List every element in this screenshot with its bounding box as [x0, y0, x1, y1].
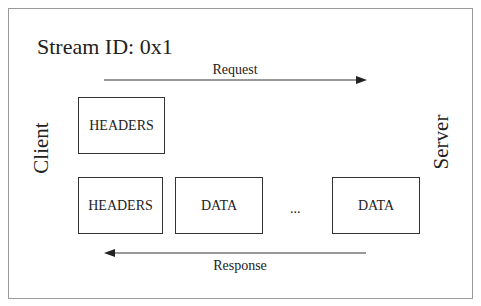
frame-label: HEADERS — [88, 198, 153, 214]
response-headers-frame: HEADERS — [78, 177, 163, 234]
ellipsis: ... — [290, 201, 301, 217]
arrowhead-left-icon — [104, 249, 115, 257]
frame-label: DATA — [201, 198, 237, 214]
frame-label: HEADERS — [89, 118, 154, 134]
frame-label: DATA — [358, 198, 394, 214]
response-data-frame-1: DATA — [175, 177, 263, 234]
response-data-frame-n: DATA — [332, 177, 420, 234]
arrowhead-right-icon — [356, 76, 367, 84]
request-label: Request — [205, 62, 265, 78]
response-label: Response — [205, 258, 275, 274]
request-headers-frame: HEADERS — [78, 97, 165, 154]
response-arrow — [104, 249, 366, 257]
